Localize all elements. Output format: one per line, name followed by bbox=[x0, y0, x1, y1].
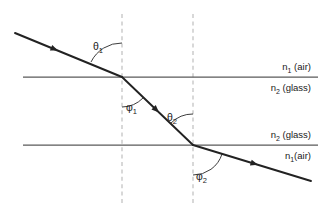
angle-labels-group: θ1 φ1 θ2 φ2 bbox=[93, 40, 207, 185]
media-labels-group: n1 (air) n2 (glass) n2 (glass) n1(air) bbox=[271, 61, 311, 163]
light-ray-group bbox=[15, 33, 311, 181]
optics-diagram-canvas: n1 (air) n2 (glass) n2 (glass) n1(air) θ… bbox=[0, 0, 325, 222]
label-theta1: θ1 bbox=[93, 40, 103, 55]
label-n1-air-top: n1 (air) bbox=[282, 61, 311, 74]
label-theta2: θ2 bbox=[167, 111, 177, 126]
incident-ray bbox=[15, 33, 122, 77]
label-n1-air-bottom: n1(air) bbox=[285, 150, 311, 163]
refraction-diagram: n1 (air) n2 (glass) n2 (glass) n1(air) θ… bbox=[0, 0, 325, 222]
ray-direction-arrows-group bbox=[50, 45, 259, 168]
label-n2-glass-top: n2 (glass) bbox=[271, 82, 311, 95]
incident-ray-arrow-icon bbox=[50, 45, 59, 54]
label-n2-glass-bottom: n2 (glass) bbox=[271, 129, 311, 142]
